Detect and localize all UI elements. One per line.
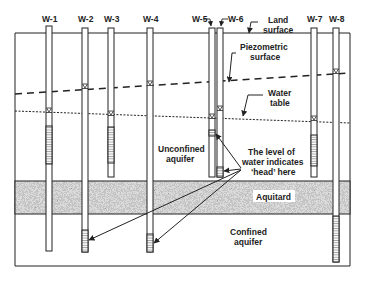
head-note-label: The level of water indicates ‘head’ here [241, 147, 304, 177]
well-screen [46, 126, 52, 164]
piezometric-surface-line [15, 73, 350, 94]
svg-text:table: table [270, 98, 290, 108]
well-w-8: W-8 [329, 14, 345, 262]
well-screen [147, 234, 153, 252]
well-screen [333, 216, 339, 262]
water-table-label: Water table [243, 88, 292, 116]
svg-text:water indicates: water indicates [241, 157, 304, 167]
well-screen [108, 127, 114, 163]
aquitard-layer [15, 181, 350, 214]
unconfined-aquifer-label: Unconfined aquifer [158, 144, 205, 164]
well-w-1: W-1 [42, 14, 58, 251]
well-w-7: W-7 [307, 14, 323, 177]
wells-group: W-1W-2W-3W-4W-5W-6W-7W-8 [42, 14, 345, 262]
well-w-4: W-4 [143, 14, 159, 252]
svg-text:Confined: Confined [230, 227, 267, 237]
confined-aquifer-label: Confined aquifer [230, 227, 267, 247]
well-label: W-6 [228, 14, 244, 24]
well-label: W-8 [329, 14, 345, 24]
svg-text:Piezometric: Piezometric [240, 42, 288, 52]
well-screen [82, 230, 88, 252]
well-screen [217, 167, 223, 177]
aquifer-diagram: W-1W-2W-3W-4W-5W-6W-7W-8 Land surface Pi… [0, 0, 367, 283]
svg-text:aquifer: aquifer [166, 154, 195, 164]
well-label: W-7 [307, 14, 323, 24]
water-table-line [15, 111, 350, 123]
well-w-2: W-2 [78, 14, 94, 252]
well-label: W-2 [78, 14, 94, 24]
well-label: W-4 [143, 14, 159, 24]
well-w-6: W-6 [217, 14, 244, 177]
well-label: W-3 [104, 14, 120, 24]
svg-text:‘head’ here: ‘head’ here [251, 167, 296, 177]
svg-text:The level of: The level of [248, 147, 295, 157]
land-surface-label: Land surface [249, 15, 294, 35]
aquitard-label: Aquitard [253, 190, 295, 202]
well-screen [311, 135, 317, 166]
svg-text:Aquitard: Aquitard [256, 192, 291, 202]
svg-text:Unconfined: Unconfined [158, 144, 205, 154]
well-label: W-1 [42, 14, 58, 24]
svg-text:aquifer: aquifer [234, 237, 263, 247]
well-screen [209, 130, 215, 136]
piezometric-surface-label: Piezometric surface [229, 42, 288, 82]
svg-text:Land: Land [268, 15, 288, 25]
svg-text:surface: surface [250, 52, 281, 62]
well-w-3: W-3 [104, 14, 120, 177]
svg-text:surface: surface [263, 25, 294, 35]
svg-text:Water: Water [268, 88, 292, 98]
